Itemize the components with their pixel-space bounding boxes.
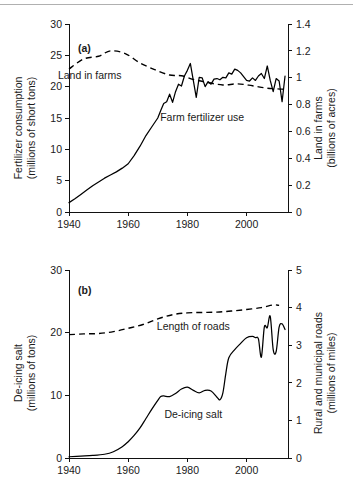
tick-label: 20 [50,80,62,92]
chart-b-right-ticks [288,270,292,458]
tick-label: 10 [50,389,62,401]
chart-a-left-ticks [65,24,69,212]
chart-b-right-tick-labels: 012345 [296,264,302,464]
tick-label: 2000 [235,218,259,230]
tick-label: 1980 [176,464,200,476]
chart-b-svg: 0102030 012345 1940196019802000 (b) De-i… [0,258,353,503]
tick-label: 1 [296,414,302,426]
tick-label: 0 [296,452,302,464]
chart-a-ylabel-line2: (millions of short tons) [25,77,37,180]
annotation-length-of-roads: Length of roads [157,320,230,332]
panel-label-b: (b) [78,284,91,296]
tick-label: 1980 [176,218,200,230]
chart-a-right-tick-labels: 00.20.40.60.811.21.4 [296,18,311,218]
tick-label: 1960 [117,464,141,476]
chart-panel-b: 0102030 012345 1940196019802000 (b) De-i… [0,258,353,503]
tick-label: 3 [296,339,302,351]
chart-b-left-tick-labels: 0102030 [50,264,62,464]
tick-label: 1 [296,71,302,83]
top-divider-rule [0,4,353,5]
tick-label: 0.6 [296,125,311,137]
tick-label: 0 [296,206,302,218]
tick-label: 1.4 [296,18,311,30]
tick-label: 0 [56,452,62,464]
tick-label: 2000 [235,464,259,476]
annotation-de-icing-salt: De-icing salt [164,408,222,420]
tick-label: 1960 [117,218,141,230]
tick-label: 4 [296,301,302,313]
chart-a-y2label-line2: (billions of acres) [325,88,337,167]
chart-b-bottom-ticks [69,458,247,462]
tick-label: 5 [56,174,62,186]
chart-a-ylabel-line1: Fertilizer consumption [12,76,24,179]
tick-label: 1.2 [296,45,311,57]
tick-label: 30 [50,264,62,276]
chart-b-left-ticks [65,270,69,458]
tick-label: 1940 [57,218,81,230]
chart-b-y2label-line1: Rural and municipal roads [312,312,324,434]
tick-label: 10 [50,143,62,155]
tick-label: 0.4 [296,152,311,164]
tick-label: 30 [50,18,62,30]
tick-label: 0 [56,206,62,218]
series-line-de-icing-salt [69,316,285,457]
chart-a-left-tick-labels: 051015202530 [50,18,62,218]
tick-label: 2 [296,377,302,389]
chart-a-right-ticks [288,24,292,212]
chart-a-bottom-ticks [69,212,247,216]
chart-a-svg: 051015202530 00.20.40.60.811.21.4 194019… [0,10,353,253]
tick-label: 0.2 [296,179,311,191]
tick-label: 20 [50,326,62,338]
tick-label: 5 [296,264,302,276]
annotation-land-in-farms: Land in farms [58,69,122,81]
tick-label: 15 [50,112,62,124]
chart-b-ylabel-line1: De-icing salt [12,344,24,402]
panel-label-a: (a) [78,42,91,54]
chart-b-x-tick-labels: 1940196019802000 [57,464,258,476]
series-line-farm-fertilizer-use [69,63,285,202]
chart-a-y2label-line1: Land in farms [312,96,324,160]
chart-b-ylabel-line2: (millions of tons) [25,335,37,411]
annotation-farm-fertilizer-use: Farm fertilizer use [160,111,244,123]
tick-label: 0.8 [296,98,311,110]
tick-label: 25 [50,49,62,61]
tick-label: 1940 [57,464,81,476]
chart-b-axes [65,270,292,462]
chart-panel-a: 051015202530 00.20.40.60.811.21.4 194019… [0,10,353,253]
chart-a-x-tick-labels: 1940196019802000 [57,218,258,230]
figure-container: 051015202530 00.20.40.60.811.21.4 194019… [0,0,353,503]
chart-b-y2label-line2: (millions of miles) [325,332,337,413]
